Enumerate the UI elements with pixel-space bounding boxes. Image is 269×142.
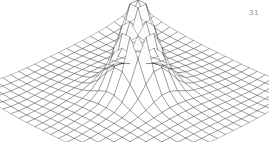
page-number: 31 (249, 8, 259, 18)
page-canvas: 31 (0, 0, 269, 142)
wireframe-mesh-svg (0, 0, 269, 142)
surface-plot-figure (0, 0, 269, 142)
